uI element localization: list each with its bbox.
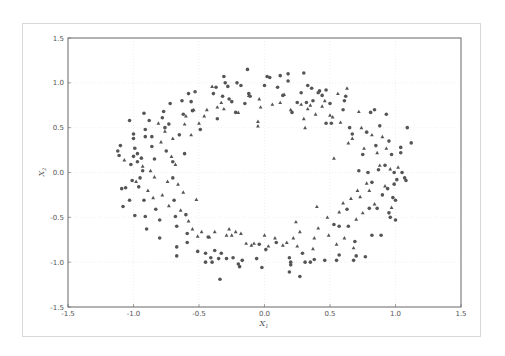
data-point-circle: [383, 164, 387, 168]
data-point-triangle: [314, 112, 318, 115]
data-point-triangle: [390, 206, 394, 209]
data-point-circle: [391, 196, 395, 200]
data-point-circle: [154, 207, 158, 211]
data-point-circle: [286, 72, 290, 76]
y-tick-label: -1.0: [50, 259, 64, 267]
x-tick-label: 1.0: [390, 310, 401, 318]
data-point-circle: [295, 101, 299, 105]
data-point-circle: [337, 253, 341, 257]
data-point-circle: [385, 112, 389, 116]
data-point-triangle: [289, 108, 293, 111]
data-point-circle: [138, 176, 142, 180]
data-point-circle: [132, 137, 136, 141]
data-point-circle: [368, 207, 372, 211]
y-tick-label: -0.5: [50, 214, 64, 222]
data-point-circle: [246, 68, 250, 72]
x-tick-label: 0.0: [259, 310, 270, 318]
data-point-circle: [354, 254, 358, 258]
data-point-circle: [390, 153, 394, 157]
data-point-triangle: [291, 236, 295, 239]
data-point-circle: [335, 259, 339, 263]
data-point-triangle: [335, 242, 339, 245]
data-point-triangle: [388, 167, 392, 170]
data-point-triangle: [303, 126, 307, 129]
data-point-circle: [185, 232, 189, 236]
data-point-circle: [392, 171, 396, 175]
data-point-circle: [175, 254, 179, 258]
data-point-circle: [332, 223, 336, 227]
data-point-circle: [299, 91, 303, 95]
data-point-triangle: [295, 244, 299, 247]
y-tick-label: 0.5: [53, 124, 64, 132]
data-point-circle: [387, 211, 391, 215]
data-point-circle: [394, 218, 398, 222]
data-point-circle: [181, 112, 185, 116]
points: [116, 68, 413, 281]
data-point-circle: [137, 185, 141, 189]
data-point-circle: [119, 144, 123, 148]
data-point-triangle: [356, 189, 360, 192]
data-point-triangle: [205, 108, 209, 111]
data-point-circle: [212, 92, 216, 96]
data-point-circle: [221, 94, 225, 98]
data-point-circle: [136, 160, 140, 164]
data-point-circle: [227, 97, 231, 101]
data-point-circle: [217, 257, 221, 261]
data-point-triangle: [170, 154, 174, 157]
data-point-triangle: [378, 163, 382, 166]
data-point-circle: [164, 149, 168, 153]
data-point-circle: [337, 225, 341, 229]
x-tick-label: 0.5: [324, 310, 335, 318]
data-point-triangle: [306, 107, 310, 110]
data-point-circle: [210, 260, 214, 264]
data-point-circle: [374, 144, 378, 148]
data-point-circle: [150, 145, 154, 149]
data-point-triangle: [234, 230, 238, 233]
data-point-triangle: [312, 236, 316, 239]
data-point-triangle: [311, 247, 315, 250]
data-point-circle: [193, 90, 197, 94]
y-tick-label: 1.0: [53, 79, 64, 87]
data-point-triangle: [244, 241, 248, 244]
data-point-triangle: [315, 205, 319, 208]
data-point-circle: [124, 186, 128, 190]
data-point-circle: [405, 126, 409, 130]
data-point-circle: [289, 263, 293, 267]
data-point-circle: [312, 258, 316, 262]
data-point-circle: [302, 71, 306, 75]
x-axis-label: X1: [259, 319, 269, 329]
data-point-circle: [399, 146, 403, 150]
data-point-circle: [174, 215, 178, 219]
data-point-circle: [373, 108, 377, 112]
data-point-circle: [257, 242, 261, 246]
data-point-triangle: [381, 135, 385, 138]
data-point-circle: [175, 245, 179, 249]
data-point-circle: [394, 198, 398, 202]
data-point-circle: [365, 130, 369, 134]
data-point-circle: [219, 251, 223, 255]
data-point-circle: [171, 176, 175, 180]
data-point-circle: [366, 171, 370, 175]
data-point-circle: [288, 256, 292, 260]
data-point-triangle: [122, 158, 126, 161]
data-point-triangle: [339, 120, 343, 123]
y-tick-label: 0.0: [53, 169, 64, 177]
data-point-circle: [276, 86, 280, 90]
data-point-circle: [143, 128, 147, 132]
data-point-circle: [352, 259, 356, 263]
data-point-triangle: [256, 119, 260, 122]
data-point-triangle: [159, 140, 163, 143]
data-point-circle: [357, 169, 361, 173]
data-point-circle: [158, 218, 162, 222]
data-point-circle: [310, 86, 314, 90]
data-point-circle: [235, 81, 239, 85]
data-point-circle: [311, 99, 315, 103]
data-point-triangle: [270, 102, 274, 105]
data-point-triangle: [156, 121, 160, 124]
data-point-circle: [142, 198, 146, 202]
data-point-triangle: [225, 233, 229, 236]
data-point-triangle: [362, 146, 366, 149]
data-point-circle: [264, 248, 268, 252]
data-point-triangle: [373, 202, 377, 205]
data-point-triangle: [358, 195, 362, 198]
